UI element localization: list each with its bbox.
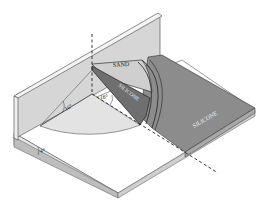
back-wall-side [14,96,18,140]
label-angle-center: 16° [100,94,108,100]
apparatus-diagram: SAND SILICONE SILICONE 16° 16° 4° [0,0,271,205]
diagram-canvas: SAND SILICONE SILICONE 16° 16° 4° [0,0,271,205]
label-sand: SAND [113,61,130,68]
label-angle-base: 4° [40,148,45,154]
